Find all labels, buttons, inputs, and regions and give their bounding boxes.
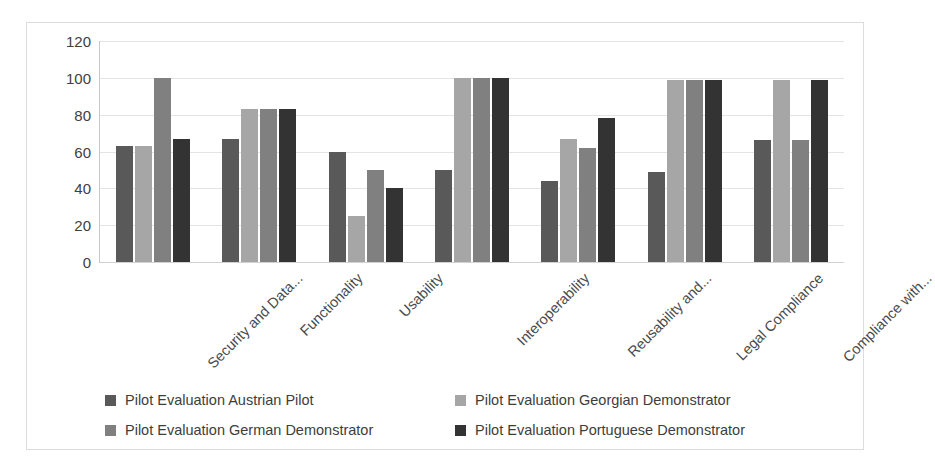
chart-frame: 020406080100120 Security and Data...Func…: [26, 22, 864, 450]
legend-swatch-icon: [105, 425, 116, 436]
bar[interactable]: [279, 109, 296, 262]
bar-group: [206, 41, 312, 262]
y-tick-label-100: 100: [66, 69, 91, 86]
bar[interactable]: [348, 216, 365, 262]
legend-label: Pilot Evaluation Georgian Demonstrator: [475, 392, 731, 408]
bar[interactable]: [329, 152, 346, 263]
bar[interactable]: [135, 146, 152, 262]
legend-swatch-icon: [105, 395, 116, 406]
y-tick-label-120: 120: [66, 33, 91, 50]
y-tick-label-80: 80: [74, 106, 91, 123]
bar[interactable]: [541, 181, 558, 262]
legend-label: Pilot Evaluation Portuguese Demonstrator: [475, 422, 745, 438]
bar[interactable]: [754, 140, 771, 262]
x-category-label: Interoperability: [514, 270, 593, 349]
bar[interactable]: [773, 80, 790, 262]
legend-row: Pilot Evaluation German DemonstratorPilo…: [105, 415, 805, 445]
x-category-label: Usability: [396, 270, 446, 320]
bar[interactable]: [386, 188, 403, 262]
y-tick-label-60: 60: [74, 143, 91, 160]
bar[interactable]: [705, 80, 722, 262]
y-tick-label-0: 0: [83, 254, 91, 271]
plot-area: [100, 41, 844, 262]
legend-item[interactable]: Pilot Evaluation Georgian Demonstrator: [455, 392, 805, 408]
bar[interactable]: [492, 78, 509, 262]
bar[interactable]: [173, 139, 190, 262]
x-axis-category-labels: Security and Data...FunctionalityUsabili…: [100, 264, 844, 384]
legend-item[interactable]: Pilot Evaluation German Demonstrator: [105, 422, 455, 438]
legend-row: Pilot Evaluation Austrian PilotPilot Eva…: [105, 385, 805, 415]
x-category-label: Legal Compliance: [733, 270, 826, 363]
legend-label: Pilot Evaluation German Demonstrator: [125, 422, 373, 438]
gridline-0: [100, 262, 844, 263]
bar[interactable]: [241, 109, 258, 262]
bar[interactable]: [473, 78, 490, 262]
y-tick-label-40: 40: [74, 180, 91, 197]
bar-group: [313, 41, 419, 262]
y-tick-label-20: 20: [74, 217, 91, 234]
bar[interactable]: [598, 118, 615, 262]
y-axis-tick-labels: 020406080100120: [27, 41, 91, 262]
legend-swatch-icon: [455, 425, 466, 436]
bar[interactable]: [116, 146, 133, 262]
bar[interactable]: [367, 170, 384, 262]
bar-group: [525, 41, 631, 262]
bar[interactable]: [454, 78, 471, 262]
bar[interactable]: [648, 172, 665, 262]
bar[interactable]: [811, 80, 828, 262]
x-category-label: Security and Data...: [204, 270, 305, 371]
bar[interactable]: [667, 80, 684, 262]
legend-swatch-icon: [455, 395, 466, 406]
bar[interactable]: [435, 170, 452, 262]
bar[interactable]: [260, 109, 277, 262]
bar-group: [738, 41, 844, 262]
bar-group: [419, 41, 525, 262]
bar-group: [100, 41, 206, 262]
bar[interactable]: [792, 140, 809, 262]
legend-label: Pilot Evaluation Austrian Pilot: [125, 392, 314, 408]
bar[interactable]: [560, 139, 577, 262]
x-category-label: Compliance with...: [840, 270, 935, 365]
legend-item[interactable]: Pilot Evaluation Portuguese Demonstrator: [455, 422, 805, 438]
legend-item[interactable]: Pilot Evaluation Austrian Pilot: [105, 392, 455, 408]
chart-legend: Pilot Evaluation Austrian PilotPilot Eva…: [105, 385, 805, 445]
bar[interactable]: [686, 80, 703, 262]
bar[interactable]: [154, 78, 171, 262]
x-category-label: Reusability and...: [625, 270, 715, 360]
x-category-label: Functionality: [297, 270, 366, 339]
bar[interactable]: [222, 139, 239, 262]
bar-group: [631, 41, 737, 262]
bar[interactable]: [579, 148, 596, 262]
